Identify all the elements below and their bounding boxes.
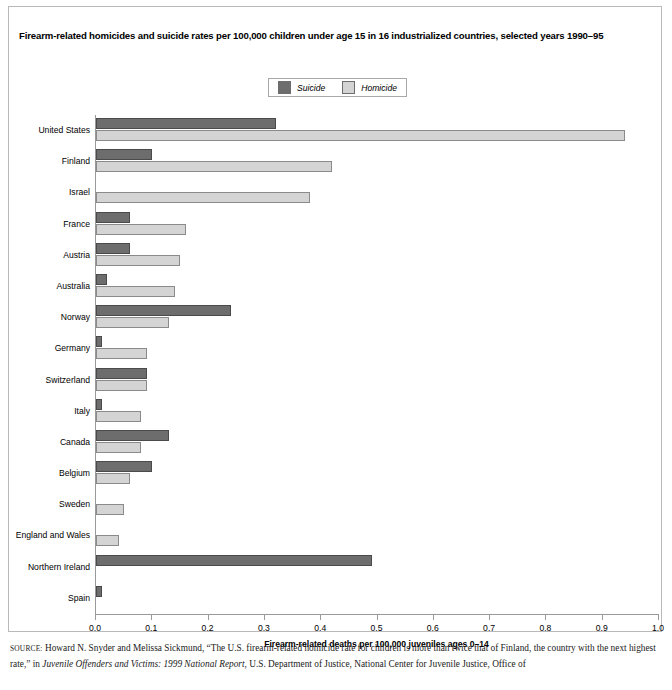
bar-group: Finland [96, 149, 659, 173]
y-axis-category-label: Finland [62, 156, 90, 166]
bar-suicide [96, 368, 147, 379]
x-axis-tick [208, 614, 209, 620]
y-axis-category-label: Norway [61, 312, 90, 322]
bar-group: Spain [96, 586, 659, 610]
chart-title: Firearm-related homicides and suicide ra… [19, 29, 647, 43]
bar-homicide [96, 161, 332, 172]
y-axis-category-label: Spain [68, 593, 90, 603]
y-axis-category-label: Italy [74, 406, 90, 416]
x-axis-tick [320, 614, 321, 620]
bar-homicide [96, 224, 186, 235]
x-axis-tick-label: 0.3 [258, 623, 270, 633]
bar-suicide [96, 461, 152, 472]
bar-suicide [96, 586, 102, 597]
source-prefix: SOURCE: [10, 644, 43, 653]
x-axis-tick-label: 0.8 [539, 623, 551, 633]
x-axis-tick-label: 0.2 [202, 623, 214, 633]
bar-suicide [96, 555, 372, 566]
legend-item-suicide: Suicide [278, 81, 325, 94]
source-line2c: , U.S. Department of Justice, National C… [245, 659, 526, 669]
y-axis-category-label: France [63, 219, 90, 229]
bar-homicide [96, 411, 141, 422]
y-axis-category-label: Austria [63, 250, 90, 260]
x-axis-tick-label: 0.9 [596, 623, 608, 633]
x-axis-tick [433, 614, 434, 620]
chart-plot-area: Firearm-related deaths per 100,000 juven… [95, 115, 658, 614]
y-axis-category-label: Belgium [59, 468, 90, 478]
bar-group: Sweden [96, 492, 659, 516]
x-axis-tick-label: 0.7 [483, 623, 495, 633]
x-axis-tick-label: 0.5 [371, 623, 383, 633]
y-axis-category-label: United States [38, 125, 90, 135]
bar-group: United States [96, 118, 659, 142]
bar-homicide [96, 286, 175, 297]
legend-swatch-suicide [278, 81, 291, 94]
y-axis-category-label: Northern Ireland [28, 562, 90, 572]
bar-suicide [96, 430, 169, 441]
bar-group: Northern Ireland [96, 555, 659, 579]
bar-group: Belgium [96, 461, 659, 485]
bar-suicide [96, 274, 107, 285]
bar-group: Austria [96, 243, 659, 267]
bar-suicide [96, 243, 130, 254]
x-axis-tick [489, 614, 490, 620]
source-note: SOURCE: Howard N. Snyder and Melissa Sic… [10, 641, 662, 671]
x-axis-tick-label: 1.0 [652, 623, 664, 633]
legend-label-homicide: Homicide [361, 83, 397, 93]
bar-group: Norway [96, 305, 659, 329]
bar-group: England and Wales [96, 523, 659, 547]
legend-item-homicide: Homicide [342, 81, 397, 94]
x-axis-tick [602, 614, 603, 620]
x-axis-tick [377, 614, 378, 620]
bar-suicide [96, 336, 102, 347]
bar-group: Australia [96, 274, 659, 298]
x-axis-tick-label: 0.0 [89, 623, 101, 633]
bar-suicide [96, 149, 152, 160]
bar-suicide [96, 118, 276, 129]
x-axis-tick [151, 614, 152, 620]
bar-group: France [96, 212, 659, 236]
y-axis-category-label: Sweden [59, 499, 90, 509]
x-axis-tick [95, 614, 96, 620]
bar-homicide [96, 380, 147, 391]
source-line1: Howard N. Snyder and Melissa Sickmund, “… [43, 643, 595, 653]
x-axis-tick-label: 0.1 [145, 623, 157, 633]
bar-homicide [96, 535, 119, 546]
chart-legend: Suicide Homicide [268, 78, 407, 97]
bar-homicide [96, 442, 141, 453]
y-axis-category-label: Germany [55, 343, 90, 353]
x-axis-tick [264, 614, 265, 620]
bar-group: Switzerland [96, 368, 659, 392]
x-axis-tick-label: 0.6 [427, 623, 439, 633]
bar-group: Canada [96, 430, 659, 454]
x-axis-tick [545, 614, 546, 620]
y-axis-category-label: England and Wales [16, 530, 90, 540]
legend-swatch-homicide [342, 81, 355, 94]
y-axis-category-label: Switzerland [46, 375, 90, 385]
bar-homicide [96, 192, 310, 203]
bar-homicide [96, 255, 180, 266]
bar-homicide [96, 473, 130, 484]
bar-group: Germany [96, 336, 659, 360]
bar-suicide [96, 399, 102, 410]
bar-homicide [96, 317, 169, 328]
bar-group: Israel [96, 180, 659, 204]
source-report-title: Juvenile Offenders and Victims: 1999 Nat… [42, 659, 244, 669]
x-axis-tick-label: 0.4 [314, 623, 326, 633]
y-axis-category-label: Israel [69, 187, 90, 197]
bar-group: Italy [96, 399, 659, 423]
bar-homicide [96, 504, 124, 515]
x-axis-tick [658, 614, 659, 620]
legend-label-suicide: Suicide [297, 83, 325, 93]
chart-figure-frame: Firearm-related homicides and suicide ra… [8, 6, 662, 632]
bar-homicide [96, 130, 625, 141]
y-axis-category-label: Australia [57, 281, 90, 291]
bar-homicide [96, 348, 147, 359]
bar-suicide [96, 305, 231, 316]
y-axis-category-label: Canada [60, 437, 90, 447]
bar-suicide [96, 212, 130, 223]
